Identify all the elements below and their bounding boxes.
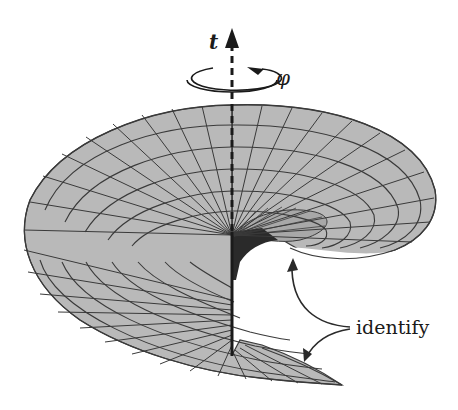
spiral-surface (24, 105, 436, 385)
angle-phi-label: φ (276, 66, 290, 90)
spiral-surface-diagram (0, 0, 458, 410)
arrowhead-icon (225, 28, 239, 48)
time-axis-label: t (209, 30, 218, 54)
identify-label: identify (356, 316, 429, 338)
